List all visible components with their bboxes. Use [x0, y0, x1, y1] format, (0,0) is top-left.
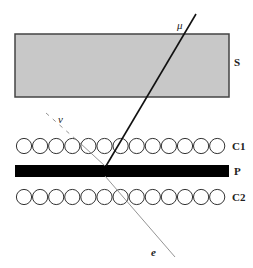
counter-tube: [210, 189, 225, 204]
muon-label: μ: [176, 19, 183, 31]
counter-tube: [113, 189, 128, 204]
counter-tube: [97, 138, 112, 153]
counter-tube: [177, 189, 192, 204]
electron-track: [105, 176, 175, 257]
counter-tube: [177, 138, 192, 153]
electron-label: e: [151, 246, 156, 258]
counter-tube: [49, 138, 64, 153]
counter-tube: [161, 189, 176, 204]
neutrino-track-solid: [80, 143, 105, 166]
counter-tube: [145, 138, 160, 153]
counter-tube: [49, 189, 64, 204]
counter-tube: [65, 189, 80, 204]
counter-tube: [33, 189, 48, 204]
counter-tube: [161, 138, 176, 153]
counter-tube: [145, 189, 160, 204]
neutrino-track: [46, 113, 80, 143]
scintillator-block: [15, 34, 229, 97]
counter-row-c2: [16, 189, 224, 204]
counter-row-c1-label: C1: [232, 140, 245, 152]
counter-tube: [97, 189, 112, 204]
counter-tube: [16, 138, 31, 153]
plate-label: P: [234, 165, 241, 177]
counter-tube: [33, 138, 48, 153]
plate-bar: [15, 165, 229, 177]
counter-tube: [16, 189, 31, 204]
counter-tube: [129, 189, 144, 204]
counter-tube: [210, 138, 225, 153]
neutrino-label: ν: [58, 113, 63, 125]
counter-row-c2-label: C2: [232, 191, 246, 203]
counter-tube: [129, 138, 144, 153]
counter-tube: [194, 138, 209, 153]
counter-tube: [65, 138, 80, 153]
scintillator-label: S: [234, 56, 240, 68]
counter-tube: [81, 189, 96, 204]
counter-tube: [194, 189, 209, 204]
detector-diagram: S C1 P C2 ν e μ: [0, 0, 253, 268]
